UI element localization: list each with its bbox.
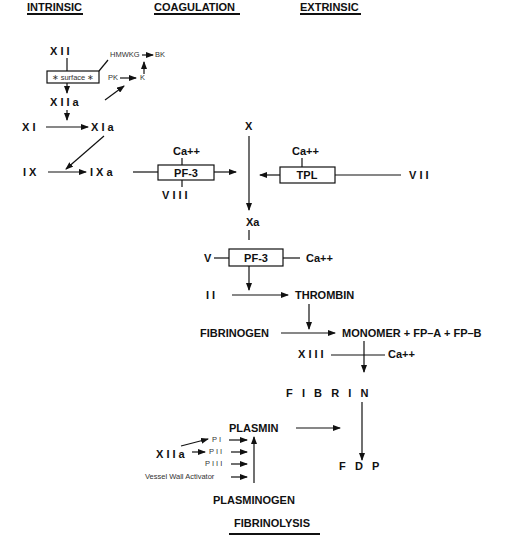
factor-xiia: X I I a [50, 96, 80, 108]
factor-xi: X I [22, 121, 35, 133]
hmwkg-label: HMWKG [110, 50, 140, 59]
header-intrinsic: INTRINSIC [27, 1, 82, 13]
arrow-xiia-k [105, 86, 124, 100]
pf3-label-1: PF-3 [174, 167, 198, 179]
header-coagulation: COAGULATION [154, 1, 235, 13]
pi-label: P I [212, 435, 221, 444]
factor-xiii: X I I I [298, 348, 324, 360]
piii-label: P I I I [205, 459, 222, 468]
factor-xii: X I I [50, 45, 70, 57]
k-label: K [140, 73, 145, 82]
monomer-label: MONOMER + FP–A + FP–B [342, 327, 482, 339]
pf3-label-2: PF-3 [244, 252, 268, 264]
fibrin-label: F I B R I N [286, 387, 369, 399]
header-extrinsic: EXTRINSIC [300, 1, 359, 13]
thrombin-label: THROMBIN [295, 289, 354, 301]
pk-label: PK [108, 73, 118, 82]
vessel-wall-activator-label: Vessel Wall Activator [145, 472, 215, 481]
calcium-4: Ca++ [388, 348, 415, 360]
connector-surface-hmwkg [99, 60, 108, 71]
factor-viii: V I I I [162, 189, 188, 201]
xiia-fibrinolysis: X I I a [156, 448, 186, 460]
surface-label: ∗ surface ∗ [52, 73, 95, 82]
fdp-label: F D P [339, 460, 379, 472]
plasmin-label: PLASMIN [229, 422, 279, 434]
factor-ii: I I [206, 289, 215, 301]
calcium-3: Ca++ [306, 252, 333, 264]
tpl-label: TPL [297, 169, 318, 181]
factor-xia: X I a [91, 121, 115, 133]
factor-ix: I X [23, 166, 37, 178]
bk-label: BK [155, 50, 165, 59]
pii-label: P I I [209, 447, 222, 456]
factor-v: V [204, 252, 212, 264]
header-fibrinolysis: FIBRINOLYSIS [234, 517, 310, 529]
calcium-1: Ca++ [173, 145, 200, 157]
factor-vii: V I I [409, 169, 429, 181]
fibrinogen-label: FIBRINOGEN [200, 327, 269, 339]
factor-ixa: I X a [90, 166, 114, 178]
calcium-2: Ca++ [292, 145, 319, 157]
arrow-xiia-pi [181, 439, 208, 446]
coagulation-cascade-diagram: INTRINSIC COAGULATION EXTRINSIC X I I ∗ … [0, 0, 513, 546]
arrow-xia-ix [66, 136, 104, 169]
factor-xa: Xa [246, 216, 260, 228]
plasminogen-label: PLASMINOGEN [213, 494, 295, 506]
factor-x: X [245, 120, 253, 132]
